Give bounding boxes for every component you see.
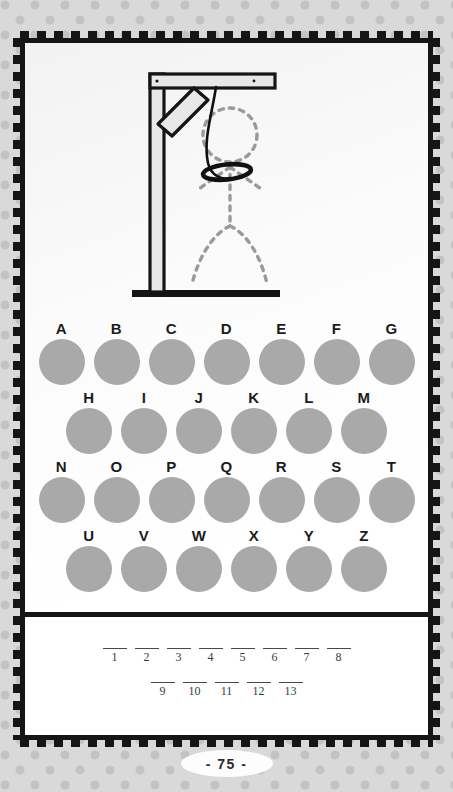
letter-disc[interactable] — [204, 477, 250, 523]
answer-blank-line[interactable] — [279, 682, 303, 683]
stamp-edge-right — [432, 38, 440, 740]
answer-blank-line[interactable] — [103, 648, 127, 649]
answer-slot[interactable]: 12 — [247, 682, 271, 698]
answer-slot[interactable]: 3 — [167, 648, 191, 664]
letter-label: O — [110, 459, 122, 475]
letter-key-j[interactable]: J — [176, 390, 223, 454]
answer-blank-line[interactable] — [183, 682, 207, 683]
letter-label: H — [83, 390, 94, 406]
letter-label: C — [166, 321, 177, 337]
letter-disc[interactable] — [39, 477, 85, 523]
letter-key-r[interactable]: R — [258, 459, 305, 523]
answer-row-2: 9 10 11 12 13 — [25, 682, 428, 698]
letter-disc[interactable] — [39, 339, 85, 385]
letter-label: U — [83, 528, 94, 544]
answer-blank-line[interactable] — [263, 648, 287, 649]
gallows-vertical-post — [150, 74, 164, 292]
letter-key-p[interactable]: P — [148, 459, 195, 523]
letter-key-i[interactable]: I — [121, 390, 168, 454]
nail-icon — [199, 92, 202, 95]
answer-blank-line[interactable] — [247, 682, 271, 683]
answer-slot-number: 3 — [176, 651, 182, 664]
letter-disc[interactable] — [176, 408, 222, 454]
letter-key-c[interactable]: C — [148, 321, 195, 385]
letter-disc[interactable] — [369, 339, 415, 385]
letter-disc[interactable] — [94, 477, 140, 523]
answer-slot[interactable]: 13 — [279, 682, 303, 698]
letter-disc[interactable] — [259, 477, 305, 523]
letter-key-y[interactable]: Y — [286, 528, 333, 592]
letter-key-h[interactable]: H — [66, 390, 113, 454]
letter-disc[interactable] — [149, 477, 195, 523]
letter-label: K — [248, 390, 259, 406]
letter-key-v[interactable]: V — [121, 528, 168, 592]
alphabet-row-3: N O P Q R — [25, 459, 428, 523]
letter-label: R — [276, 459, 287, 475]
letter-disc[interactable] — [94, 339, 140, 385]
answer-blank-line[interactable] — [327, 648, 351, 649]
answer-slot[interactable]: 11 — [215, 682, 239, 698]
answer-slot[interactable]: 5 — [231, 648, 255, 664]
letter-disc[interactable] — [66, 408, 112, 454]
letter-key-m[interactable]: M — [341, 390, 388, 454]
letter-disc[interactable] — [259, 339, 305, 385]
letter-key-l[interactable]: L — [286, 390, 333, 454]
letter-key-q[interactable]: Q — [203, 459, 250, 523]
answer-blank-line[interactable] — [199, 648, 223, 649]
letter-disc[interactable] — [231, 546, 277, 592]
answer-blank-line[interactable] — [231, 648, 255, 649]
letter-key-w[interactable]: W — [176, 528, 223, 592]
letter-key-o[interactable]: O — [93, 459, 140, 523]
letter-disc[interactable] — [176, 546, 222, 592]
letter-key-t[interactable]: T — [368, 459, 415, 523]
answer-blank-line[interactable] — [151, 682, 175, 683]
victim-outline — [192, 108, 267, 284]
letter-label: Q — [220, 459, 232, 475]
letter-disc[interactable] — [369, 477, 415, 523]
letter-key-b[interactable]: B — [93, 321, 140, 385]
letter-disc[interactable] — [204, 339, 250, 385]
answer-blank-line[interactable] — [167, 648, 191, 649]
answer-slot[interactable]: 8 — [327, 648, 351, 664]
letter-label: Z — [359, 528, 369, 544]
letter-label: Y — [304, 528, 315, 544]
answer-blank-line[interactable] — [295, 648, 319, 649]
answer-slot[interactable]: 2 — [135, 648, 159, 664]
letter-key-x[interactable]: X — [231, 528, 278, 592]
letter-key-n[interactable]: N — [38, 459, 85, 523]
letter-disc[interactable] — [66, 546, 112, 592]
letter-key-z[interactable]: Z — [341, 528, 388, 592]
answer-slot[interactable]: 1 — [103, 648, 127, 664]
letter-label: V — [139, 528, 150, 544]
answer-slot[interactable]: 4 — [199, 648, 223, 664]
letter-key-a[interactable]: A — [38, 321, 85, 385]
answer-slot-number: 7 — [304, 651, 310, 664]
letter-key-f[interactable]: F — [313, 321, 360, 385]
answer-slot-number: 5 — [240, 651, 246, 664]
letter-key-u[interactable]: U — [66, 528, 113, 592]
letter-key-s[interactable]: S — [313, 459, 360, 523]
letter-disc[interactable] — [231, 408, 277, 454]
answer-slot[interactable]: 6 — [263, 648, 287, 664]
letter-disc[interactable] — [286, 546, 332, 592]
letter-disc[interactable] — [149, 339, 195, 385]
letter-disc[interactable] — [121, 546, 167, 592]
letter-disc[interactable] — [314, 339, 360, 385]
letter-disc[interactable] — [121, 408, 167, 454]
letter-disc[interactable] — [314, 477, 360, 523]
answer-slot[interactable]: 9 — [151, 682, 175, 698]
letter-key-k[interactable]: K — [231, 390, 278, 454]
letter-disc[interactable] — [341, 546, 387, 592]
letter-key-d[interactable]: D — [203, 321, 250, 385]
letter-disc[interactable] — [341, 408, 387, 454]
letter-key-g[interactable]: G — [368, 321, 415, 385]
alphabet-row-1: A B C D E — [25, 321, 428, 385]
letter-label: X — [249, 528, 260, 544]
answer-slot[interactable]: 7 — [295, 648, 319, 664]
answer-blank-line[interactable] — [215, 682, 239, 683]
answer-blank-line[interactable] — [135, 648, 159, 649]
victim-left-leg-outline — [192, 226, 230, 284]
letter-key-e[interactable]: E — [258, 321, 305, 385]
letter-disc[interactable] — [286, 408, 332, 454]
answer-slot[interactable]: 10 — [183, 682, 207, 698]
